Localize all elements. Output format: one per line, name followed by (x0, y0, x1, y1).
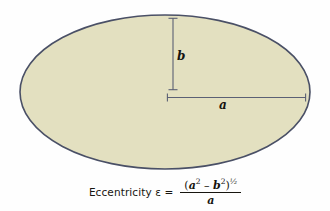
equals-sign: = (164, 186, 173, 198)
fraction-denominator: a (207, 193, 214, 206)
numerator-term-b: b (213, 179, 221, 192)
formula-word-eccentricity: Eccentricity (89, 186, 152, 198)
fraction-numerator: (a2 – b2)¹⁄₂ (180, 178, 241, 192)
minus-operator: – (201, 179, 214, 192)
numerator-term-a: a (189, 179, 196, 192)
ellipse-figure: b a Eccentricity ε = (a2 – b2)¹⁄₂ a (0, 0, 330, 211)
formula-left-hand-side: Eccentricity ε = (89, 186, 173, 198)
outer-exponent-one-half: ¹⁄₂ (230, 177, 237, 186)
semi-minor-axis-label: b (177, 50, 185, 62)
formula-fraction: (a2 – b2)¹⁄₂ a (180, 178, 241, 206)
epsilon-symbol: ε (155, 186, 161, 198)
eccentricity-formula: Eccentricity ε = (a2 – b2)¹⁄₂ a (0, 178, 330, 206)
semi-major-axis-label: a (219, 99, 227, 111)
